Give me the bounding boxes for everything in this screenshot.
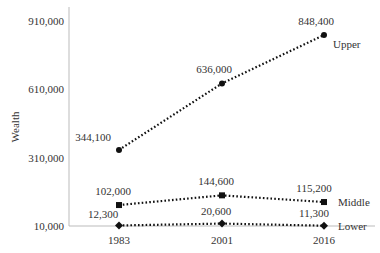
- circle-marker-icon: [219, 80, 225, 86]
- wealth-line-chart: 10,000310,000610,000910,000Wealth1983200…: [0, 0, 380, 253]
- square-marker-icon: [321, 199, 327, 205]
- data-label: 144,600: [198, 175, 234, 187]
- data-label: 115,200: [296, 182, 332, 194]
- y-tick-label: 910,000: [28, 15, 64, 27]
- y-tick-label: 610,000: [28, 83, 64, 95]
- chart-canvas: 10,000310,000610,000910,000Wealth1983200…: [0, 0, 380, 253]
- y-axis-title: Wealth: [9, 111, 21, 142]
- series-name-middle: Middle: [338, 196, 370, 208]
- series-line-upper: [119, 35, 324, 150]
- data-label: 11,300: [299, 207, 329, 219]
- circle-marker-icon: [321, 32, 327, 38]
- y-tick-label: 310,000: [28, 152, 64, 164]
- square-marker-icon: [116, 202, 122, 208]
- x-tick-label: 2016: [313, 234, 336, 246]
- x-tick-label: 2001: [211, 234, 233, 246]
- data-label: 848,400: [298, 15, 334, 27]
- data-label: 102,000: [95, 185, 131, 197]
- x-tick-label: 1983: [108, 234, 131, 246]
- y-tick-label: 10,000: [34, 220, 65, 232]
- diamond-marker-icon: [320, 222, 328, 230]
- diamond-marker-icon: [115, 221, 123, 229]
- data-label: 636,000: [196, 63, 232, 75]
- data-label: 20,600: [201, 205, 232, 217]
- data-label: 12,300: [88, 208, 119, 220]
- data-label: 344,100: [75, 131, 111, 143]
- series-name-lower: Lower: [338, 220, 367, 232]
- circle-marker-icon: [116, 147, 122, 153]
- series-name-upper: Upper: [333, 38, 361, 50]
- square-marker-icon: [219, 192, 225, 198]
